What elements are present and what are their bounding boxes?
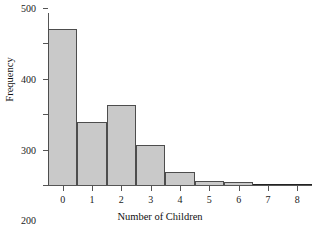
y-axis-title: Frequency — [4, 15, 15, 145]
x-tick — [151, 186, 152, 191]
x-tick-label: 1 — [90, 194, 95, 205]
y-tick: 500 — [43, 8, 48, 9]
x-tick — [63, 186, 64, 191]
x-tick-label: 6 — [236, 194, 241, 205]
x-tick — [121, 186, 122, 191]
x-tick-label: 2 — [119, 194, 124, 205]
histogram-bar — [195, 181, 224, 185]
histogram-bar — [253, 184, 282, 185]
plot-area: 0100200300400500 012345678 — [48, 8, 312, 185]
x-tick-label: 3 — [148, 194, 153, 205]
x-tick — [297, 186, 298, 191]
histogram-bar — [283, 184, 312, 185]
x-tick — [209, 186, 210, 191]
histogram-bar — [165, 172, 194, 185]
y-tick-label: 400 — [21, 73, 36, 84]
histogram-bar — [77, 122, 106, 185]
x-tick — [180, 186, 181, 191]
histogram-bar — [48, 29, 77, 185]
y-tick-label: 300 — [21, 144, 36, 155]
x-tick — [239, 186, 240, 191]
x-tick-label: 7 — [266, 194, 271, 205]
x-tick-label: 0 — [60, 194, 65, 205]
x-tick — [92, 186, 93, 191]
x-tick-label: 4 — [178, 194, 183, 205]
histogram-bar — [136, 145, 165, 185]
y-tick: 0 — [43, 185, 48, 186]
histogram-figure: 0100200300400500 012345678 Frequency Num… — [0, 0, 320, 232]
histogram-bar — [224, 182, 253, 185]
x-tick-label: 5 — [207, 194, 212, 205]
x-tick-label: 8 — [295, 194, 300, 205]
y-tick-label: 500 — [21, 3, 36, 14]
x-tick — [268, 186, 269, 191]
histogram-bar — [107, 105, 136, 185]
x-axis-title: Number of Children — [0, 211, 320, 222]
